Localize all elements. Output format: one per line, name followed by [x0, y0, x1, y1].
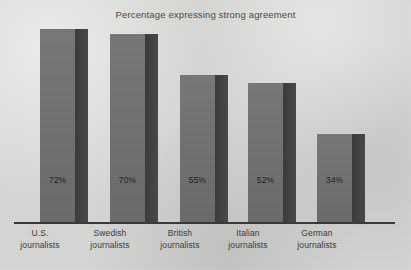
bar-side-shadow [145, 34, 158, 223]
bar-value-label: 52% [248, 175, 283, 185]
bar-chart-figure: Percentage expressing strong agreement 7… [0, 0, 411, 270]
x-axis-category-label: German journalists [274, 228, 360, 251]
bar-side-shadow [215, 75, 228, 223]
bar-value-label: 70% [110, 175, 145, 185]
category-label-line2: journalists [274, 240, 360, 252]
bar-face [248, 83, 283, 223]
x-axis-line [14, 222, 395, 224]
bar-face [40, 29, 75, 223]
bar-value-label: 72% [40, 175, 75, 185]
bar-side-shadow [352, 134, 365, 223]
bar-face [110, 34, 145, 223]
plot-area: 72% 70% 55% 52% 34% U.S. [0, 0, 411, 270]
bar-face [180, 75, 215, 223]
category-label-line1: German [274, 228, 360, 240]
bar-value-label: 55% [180, 175, 215, 185]
bar-value-label: 34% [317, 175, 352, 185]
bar-side-shadow [283, 83, 296, 223]
bar-side-shadow [75, 29, 88, 223]
